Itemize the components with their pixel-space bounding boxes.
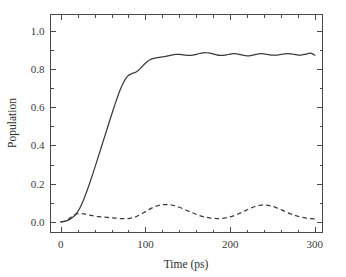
y-tick-label: 0.8 xyxy=(31,63,45,75)
chart-background xyxy=(0,0,346,277)
x-axis-title: Time (ps) xyxy=(164,258,209,271)
y-tick-label: 0.2 xyxy=(31,178,45,190)
x-tick-label: 300 xyxy=(307,238,324,250)
x-tick-label: 0 xyxy=(58,238,64,250)
x-tick-label: 200 xyxy=(222,238,239,250)
figure-container: 01002003000.00.20.40.60.81.0 Time (ps) P… xyxy=(0,0,346,277)
y-axis-title: Population xyxy=(6,98,19,148)
population-vs-time-chart: 01002003000.00.20.40.60.81.0 Time (ps) P… xyxy=(0,0,346,277)
y-tick-label: 0.0 xyxy=(31,216,45,228)
y-tick-label: 0.4 xyxy=(31,139,45,151)
y-tick-label: 0.6 xyxy=(31,101,45,113)
x-tick-label: 100 xyxy=(137,238,154,250)
y-tick-label: 1.0 xyxy=(31,25,45,37)
